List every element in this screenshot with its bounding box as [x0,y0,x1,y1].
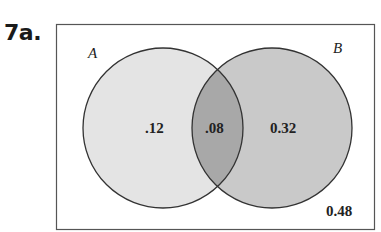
value-neither: 0.48 [326,203,352,219]
value-a-only: .12 [145,120,164,136]
set-a-label: A [87,45,98,61]
value-a-and-b: .08 [205,120,224,136]
venn-diagram: A B .12 .08 0.32 0.48 [0,0,381,232]
set-b-label: B [333,40,342,56]
value-b-only: 0.32 [270,120,296,136]
